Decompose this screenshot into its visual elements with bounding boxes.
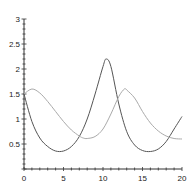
y-tick-label: 2 bbox=[16, 65, 21, 74]
y-tick-label: 2.5 bbox=[9, 40, 21, 49]
axes: 051015200.511.522.53 bbox=[9, 15, 187, 183]
line-chart: 051015200.511.522.53 bbox=[0, 0, 195, 192]
x-tick-label: 15 bbox=[138, 174, 147, 183]
x-tick-label: 0 bbox=[22, 174, 27, 183]
x-tick-label: 10 bbox=[99, 174, 108, 183]
series-line bbox=[24, 88, 182, 139]
y-tick-label: 1.5 bbox=[9, 90, 21, 99]
series-line bbox=[24, 59, 182, 152]
y-tick-label: 0.5 bbox=[9, 140, 21, 149]
y-tick-label: 3 bbox=[16, 15, 21, 24]
x-tick-label: 20 bbox=[178, 174, 187, 183]
x-tick-label: 5 bbox=[61, 174, 66, 183]
plot-area bbox=[24, 59, 182, 152]
y-tick-label: 1 bbox=[16, 115, 21, 124]
